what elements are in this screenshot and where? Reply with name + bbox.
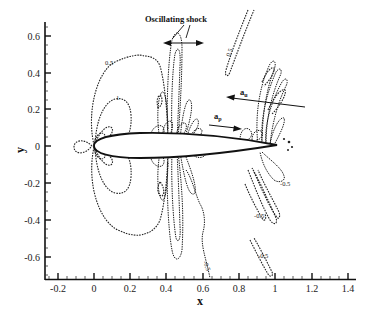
arrow-left-icon	[163, 40, 171, 46]
arrow-left-icon	[226, 95, 235, 101]
contour-label: -0.5	[258, 252, 268, 259]
shock-annotation: Oscillating shock	[145, 14, 207, 46]
upstream-wave-label: au	[240, 87, 248, 98]
y-tick-label: 0.6	[28, 31, 41, 42]
x-tick-label: 0.4	[160, 283, 173, 294]
x-tick-label: 1.2	[306, 283, 319, 294]
contour-label: -0.5	[254, 212, 264, 219]
x-tick-label: 0.6	[197, 283, 210, 294]
propagating-wave-label: ap	[214, 111, 222, 122]
arrow-right-icon	[196, 40, 204, 46]
propagating-wave-annotation: ap	[209, 111, 242, 132]
x-tick-label: 0.8	[233, 283, 246, 294]
x-tick-label: -0.2	[50, 283, 66, 294]
y-tick-labels: 0.6 0.4 0.2 0 -0.2 -0.4 -0.6	[24, 31, 40, 263]
y-tick-label: -0.6	[24, 252, 40, 263]
y-axis-title: y	[13, 147, 27, 153]
airfoil	[94, 133, 277, 158]
x-tick-label: 1.4	[342, 283, 355, 294]
x-tick-label: 1	[273, 283, 278, 294]
x-axis-title: x	[197, 294, 203, 308]
shock-label: Oscillating shock	[145, 14, 207, 24]
y-tick-label: 0	[35, 141, 40, 152]
contour-label: -0.5	[202, 260, 212, 272]
y-axis: 0.6 0.4 0.2 0 -0.2 -0.4 -0.6 y	[13, 22, 51, 280]
x-tick-label: 0.2	[124, 283, 137, 294]
contour-label: 0.5	[105, 59, 113, 66]
y-tick-label: 0.4	[28, 68, 41, 79]
contour-label: 1	[116, 94, 119, 101]
y-tick-label: -0.4	[24, 215, 40, 226]
contour-label: 0.5	[224, 47, 233, 57]
y-tick-label: 0.2	[28, 104, 41, 115]
y-tick-label: -0.2	[24, 178, 40, 189]
arrow-right-icon	[233, 126, 242, 132]
contour-plot: 0.6 0.4 0.2 0 -0.2 -0.4 -0.6 y	[0, 0, 370, 311]
contour-label: -0.5	[280, 180, 290, 187]
x-tick-label: 0	[92, 283, 97, 294]
x-axis: -0.2 0 0.2 0.4 0.6 0.8 1 1.2 1.4 x	[45, 273, 356, 308]
x-tick-labels: -0.2 0 0.2 0.4 0.6 0.8 1 1.2 1.4	[50, 283, 354, 294]
